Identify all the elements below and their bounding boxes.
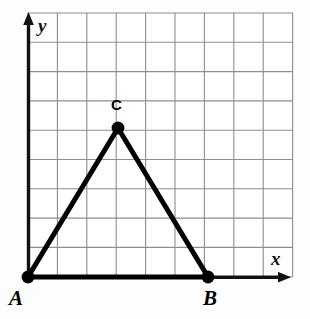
geometry-figure: y x A B C xyxy=(0,0,310,319)
vertex-label-a: A xyxy=(9,288,23,309)
vertex-point-a xyxy=(22,271,35,284)
vertex-point-b xyxy=(202,271,215,284)
vertex-label-c: C xyxy=(111,97,122,112)
coordinate-plane xyxy=(0,0,310,319)
vertex-point-c xyxy=(112,122,125,135)
x-axis-label: x xyxy=(271,249,281,268)
y-axis-label: y xyxy=(38,16,46,35)
vertex-label-b: B xyxy=(203,288,217,309)
grid-background xyxy=(28,13,293,277)
